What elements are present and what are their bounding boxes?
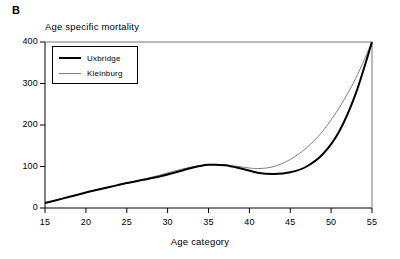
legend-line-swatch-kleinburg (59, 73, 81, 74)
x-tick-label-15: 15 (33, 217, 57, 227)
y-tick-label-100: 100 (8, 161, 38, 171)
y-tick-label-400: 400 (8, 36, 38, 46)
legend: Uxbridge Kleinburg (52, 46, 138, 84)
x-axis-ticks (45, 208, 372, 213)
y-tick-label-200: 200 (8, 119, 38, 129)
legend-label-uxbridge: Uxbridge (87, 54, 121, 63)
x-tick-label-20: 20 (74, 217, 98, 227)
figure-panel-b: B Age specific mortality (0, 0, 400, 259)
x-tick-label-55: 55 (360, 217, 384, 227)
x-tick-label-35: 35 (197, 217, 221, 227)
y-axis-ticks (40, 42, 45, 208)
x-tick-label-50: 50 (319, 217, 343, 227)
legend-entry-uxbridge: Uxbridge (59, 52, 121, 64)
legend-line-swatch-uxbridge (59, 57, 81, 59)
x-tick-label-25: 25 (115, 217, 139, 227)
x-axis-title: Age category (0, 236, 400, 247)
y-tick-label-0: 0 (8, 202, 38, 212)
x-tick-label-30: 30 (156, 217, 180, 227)
y-tick-label-300: 300 (8, 78, 38, 88)
legend-label-kleinburg: Kleinburg (87, 69, 123, 78)
legend-entry-kleinburg: Kleinburg (59, 67, 123, 79)
x-tick-label-40: 40 (237, 217, 261, 227)
x-tick-label-45: 45 (278, 217, 302, 227)
